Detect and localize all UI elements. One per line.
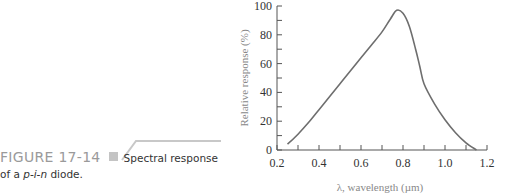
x-tick-label: 0.2	[270, 156, 285, 170]
y-tick-label: 0	[266, 143, 272, 157]
y-tick-label: 60	[260, 57, 272, 71]
figure-title: Spectral response	[124, 152, 218, 164]
response-curve	[288, 10, 477, 150]
x-axis-label: λ, wavelength (µm)	[337, 181, 424, 194]
x-tick-label: 0.6	[354, 156, 369, 170]
y-tick-label: 100	[254, 0, 272, 13]
caption-square-icon	[109, 152, 118, 161]
x-tick-label: 0.4	[312, 156, 327, 170]
axes	[277, 6, 487, 150]
figure-number: FIGURE 17-14	[0, 149, 101, 165]
spectral-response-chart: 0204060801000.20.40.60.81.01.2 Relative …	[0, 0, 511, 196]
y-tick-label: 20	[260, 114, 272, 128]
x-tick-label: 1.2	[480, 156, 495, 170]
y-axis-label: Relative response (%)	[238, 29, 251, 126]
x-tick-label: 1.0	[438, 156, 453, 170]
y-tick-label: 40	[260, 85, 272, 99]
figure-caption: FIGURE 17-14Spectral response	[0, 147, 218, 166]
figure-subtitle: of a p-i-n diode.	[0, 168, 83, 180]
tick-labels: 0204060801000.20.40.60.81.01.2	[254, 0, 495, 170]
x-tick-label: 0.8	[396, 156, 411, 170]
y-tick-label: 80	[260, 28, 272, 42]
